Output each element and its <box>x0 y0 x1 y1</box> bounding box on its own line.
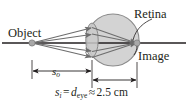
eye-diameter-symbol: d <box>71 86 77 98</box>
object-distance-subscript: o <box>56 70 60 79</box>
object-distance-label: so <box>52 66 60 77</box>
image-distance-subscript: i <box>59 91 61 100</box>
object-label: Object <box>8 27 41 40</box>
optics-ray-diagram-figure: Object Retina Image so si=deye≈2.5 cm <box>0 0 190 107</box>
eye-diameter-subscript: eye <box>77 91 87 100</box>
image-distance-equation: si=deye≈2.5 cm <box>55 86 128 98</box>
object-distance-dimension <box>32 60 92 79</box>
equals-sign: = <box>62 86 72 98</box>
retina-label: Retina <box>134 8 167 21</box>
image-point <box>134 40 140 46</box>
object-point <box>29 40 35 46</box>
approx-sign: ≈ <box>87 86 96 98</box>
image-label: Image <box>138 50 169 63</box>
eye-diameter-unit: cm <box>114 86 128 98</box>
eye-diameter-value: 2.5 <box>97 86 111 98</box>
